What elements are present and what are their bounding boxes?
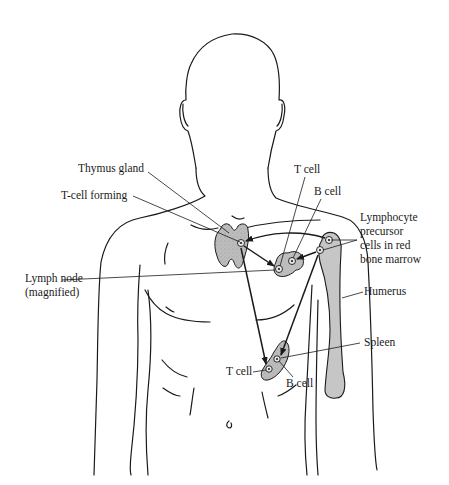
label-spleen: Spleen [364,336,395,349]
label-t-cell-top: T cell [294,163,320,176]
leader-lymph-node [62,270,275,280]
label-b-cell-bottom: B cell [286,377,313,390]
label-precursor-line4: bone marrow [360,253,421,266]
leader-spleen [281,343,360,358]
humerus-bone [319,232,345,398]
head-outline [180,34,285,168]
arrow-thymus-to-lymph-node [244,246,274,266]
label-precursor-line1: Lymphocyte [360,211,418,224]
leader-t-cell-forming [133,196,240,242]
leader-thymus-gland [148,172,229,233]
label-t-cell-bottom: T cell [226,365,252,378]
label-thymus-gland: Thymus gland [78,162,144,175]
arrow-marrow-to-thymus [246,233,325,241]
label-precursor-line3: cells in red [360,239,410,252]
label-precursor-line2: precursor [360,225,403,238]
diagram-stage: Thymus gland T-cell forming Lymph node (… [0,0,449,485]
label-lymph-node-line2: (magnified) [25,286,79,299]
label-humerus: Humerus [364,285,406,298]
arrow-thymus-to-spleen [241,248,266,364]
leader-humerus [342,292,363,298]
label-b-cell-top: B cell [314,185,341,198]
label-t-cell-forming: T-cell forming [61,189,127,202]
label-lymph-node-line1: Lymph node [25,272,83,285]
